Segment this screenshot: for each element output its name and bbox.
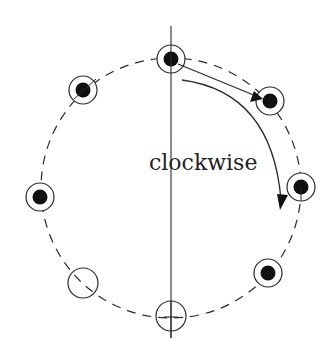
node-right [287,173,315,201]
short-arrow [178,64,263,102]
clockwise-label: clockwise [149,150,257,175]
node-bottom [156,301,186,338]
clockwise-diagram: clockwise [0,0,333,345]
node-bottom-right [254,259,282,287]
node-top-right [256,87,284,115]
node-top-left [69,76,97,104]
node-left [26,183,54,211]
node-bottom-left [68,268,98,298]
node-top [157,45,185,73]
